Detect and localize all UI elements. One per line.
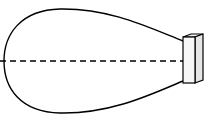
emitter-box bbox=[183, 34, 203, 83]
radiation-pattern-diagram bbox=[0, 0, 209, 117]
